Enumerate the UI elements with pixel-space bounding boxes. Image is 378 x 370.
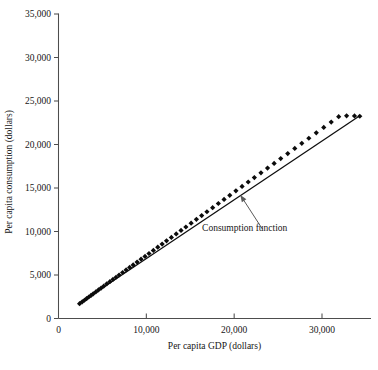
y-axis-title: Per capita consumption (dollars) [4,110,15,234]
y-tick-label: 35,000 [25,9,51,19]
x-tick-label: 30,000 [309,325,335,335]
y-tick-label: 20,000 [25,140,51,150]
y-tick-label: 25,000 [25,96,51,106]
y-tick-label: 15,000 [25,183,51,193]
x-tick-label: 20,000 [221,325,247,335]
y-tick-label: 5,000 [30,270,52,280]
x-tick-label: 0 [56,325,61,335]
y-tick-label: 0 [46,314,51,324]
annotation-label: Consumption function [202,223,287,233]
consumption-function-chart: 05,00010,00015,00020,00025,00030,00035,0… [0,0,378,370]
chart-canvas: 05,00010,00015,00020,00025,00030,00035,0… [0,0,378,370]
x-tick-label: 10,000 [133,325,159,335]
x-axis-title: Per capita GDP (dollars) [168,341,261,352]
y-tick-label: 30,000 [25,53,51,63]
chart-background [0,0,378,370]
y-tick-label: 10,000 [25,227,51,237]
